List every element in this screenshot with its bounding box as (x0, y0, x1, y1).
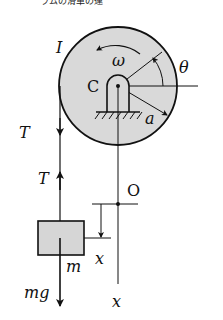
label-x-displacement: x (95, 249, 104, 268)
origin-point (116, 202, 120, 206)
label-T-lower: T (38, 169, 50, 188)
label-T-upper: T (19, 123, 31, 142)
label-I: I (55, 38, 63, 57)
label-O: O (127, 181, 140, 200)
label-omega: ω (112, 51, 125, 70)
label-x-axis: x (112, 292, 121, 311)
label-C: C (87, 77, 99, 96)
block-mass (38, 221, 84, 255)
label-theta: θ (179, 58, 189, 77)
caption-fragment: ラムの滑車の運 (40, 0, 103, 6)
label-a: a (145, 109, 155, 128)
label-mg: mg (24, 283, 49, 302)
pulley-block-diagram: ラムの滑車の運 I C ω θ a T T O x (0, 0, 223, 320)
label-m: m (66, 257, 81, 276)
